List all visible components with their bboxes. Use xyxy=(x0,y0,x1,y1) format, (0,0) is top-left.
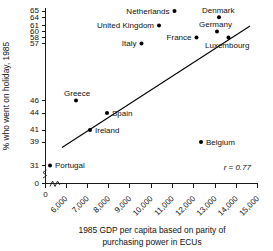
x-tick-label: 7,000 xyxy=(70,194,91,215)
point-label-belgium: Belgium xyxy=(206,138,235,147)
point-label-germany: Germany xyxy=(199,20,232,29)
scatter-plot-figure: 65 64 61 60 58 57 46 44 41 39 31 0 xyxy=(0,0,273,251)
correlation-annotation: r = 0.77 xyxy=(224,163,252,172)
x-tick-label: 10,000 xyxy=(131,194,155,218)
data-point-spain[interactable] xyxy=(105,111,109,115)
x-tick-label: 0 xyxy=(43,190,48,199)
data-point-belgium[interactable] xyxy=(199,140,203,144)
y-tick-label: 0 xyxy=(35,179,40,188)
y-tick-label: 57 xyxy=(30,39,39,48)
x-tick-label: 6,000 xyxy=(49,194,70,215)
y-tick-label: 39 xyxy=(30,137,39,146)
y-tick-label: 46 xyxy=(30,96,39,105)
x-tick-label: 8,000 xyxy=(91,194,112,215)
point-label-spain: Spain xyxy=(112,109,132,118)
y-tick-label: 31 xyxy=(30,161,39,170)
y-tick-label: 44 xyxy=(30,108,39,117)
data-point-portugal[interactable] xyxy=(48,164,52,168)
data-point-italy[interactable] xyxy=(140,42,144,46)
point-label-italy: Italy xyxy=(122,39,137,48)
y-axis-title: % who went on holiday, 1985 xyxy=(1,41,11,150)
data-point-luxembourg[interactable] xyxy=(227,36,231,40)
data-point-united-kingdom[interactable] xyxy=(157,24,161,28)
point-label-netherlands: Netherlands xyxy=(126,7,169,16)
data-point-denmark[interactable] xyxy=(217,15,221,19)
data-point-labels-group: Portugal Greece Ireland Spain Italy Unit… xyxy=(55,6,249,171)
chart-canvas: 65 64 61 60 58 57 46 44 41 39 31 0 xyxy=(0,0,273,251)
x-axis-ticks xyxy=(46,184,258,188)
x-tick-label: 14,000 xyxy=(216,194,240,218)
point-label-greece: Greece xyxy=(64,89,91,98)
y-axis-tick-labels: 65 64 61 60 58 57 46 44 41 39 31 0 xyxy=(30,6,39,188)
point-label-ireland: Ireland xyxy=(95,126,119,135)
point-label-united-kingdom: United Kingdom xyxy=(97,21,154,30)
x-tick-label: 12,000 xyxy=(174,194,198,218)
data-point-netherlands[interactable] xyxy=(173,9,177,13)
y-tick-label: 41 xyxy=(30,125,39,134)
point-label-france: France xyxy=(167,33,192,42)
data-point-ireland[interactable] xyxy=(88,128,92,132)
data-point-france[interactable] xyxy=(195,36,199,40)
x-tick-label: 13,000 xyxy=(195,194,219,218)
x-axis-title-line1: 1985 GDP per capita based on parity of xyxy=(79,225,227,235)
data-point-germany[interactable] xyxy=(215,29,219,33)
x-tick-label: 15,000 xyxy=(237,194,261,218)
point-label-luxembourg: Luxembourg xyxy=(205,41,249,50)
x-axis-tick-labels: 0 6,000 7,000 8,000 9,000 10,000 11,000 … xyxy=(43,190,261,218)
x-tick-label: 11,000 xyxy=(153,194,177,218)
y-axis-ticks xyxy=(42,11,46,184)
point-label-portugal: Portugal xyxy=(55,161,85,170)
data-point-greece[interactable] xyxy=(74,99,78,103)
point-label-denmark: Denmark xyxy=(202,6,235,15)
x-axis-title-line2: purchasing power in ECUs xyxy=(102,237,201,247)
